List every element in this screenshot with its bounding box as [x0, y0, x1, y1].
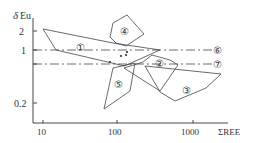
sample-point — [109, 61, 111, 63]
y-tick-label-02: 0.2 — [14, 98, 27, 109]
x-tick-label-10: 10 — [37, 127, 47, 137]
region-label-3: ③ — [182, 85, 191, 96]
x-axis-label: ΣREE — [218, 127, 241, 137]
region-label-2: ② — [155, 58, 164, 69]
region-1 — [43, 29, 160, 66]
eu-anomaly-vs-ree-chart: δ Eu 2 1 0.2 10 100 1000 ΣREE ⑥ ⑦ ① ② ③ … — [0, 0, 259, 143]
x-tick-label-1000: 1000 — [181, 127, 200, 137]
sample-point — [125, 54, 127, 56]
y-axis-label-delta: δ — [13, 9, 19, 21]
y-tick-label-2: 2 — [19, 26, 24, 37]
region-label-1: ① — [76, 42, 85, 53]
region-label-4: ④ — [120, 26, 129, 37]
y-tick-label-1: 1 — [21, 45, 26, 56]
sample-point — [120, 55, 122, 57]
y-axis-label-eu: Eu — [20, 10, 31, 21]
sample-point — [126, 51, 128, 53]
region-label-5: ⑤ — [114, 79, 123, 90]
region-2 — [124, 55, 178, 91]
axes — [33, 18, 228, 123]
reference-label-6: ⑥ — [213, 45, 222, 56]
reference-label-7: ⑦ — [213, 59, 222, 70]
x-tick-label-100: 100 — [108, 127, 122, 137]
